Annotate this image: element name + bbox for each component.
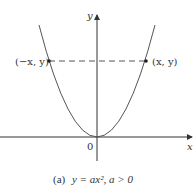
y-axis-label: y (86, 10, 93, 21)
figure-caption: (a) y = ax², a > 0 (53, 173, 133, 186)
parabola-diagram: (−x, y) (x, y) y x 0 (a) y = ax², a > 0 (0, 0, 195, 189)
caption-prefix: (a) (53, 173, 66, 186)
point-right (144, 59, 148, 63)
point-right-label: (x, y) (152, 56, 178, 67)
origin-label: 0 (87, 141, 93, 152)
x-axis-label: x (187, 141, 193, 152)
point-left-label: (−x, y) (15, 56, 49, 67)
caption-equation: y = ax², a > 0 (71, 173, 133, 185)
